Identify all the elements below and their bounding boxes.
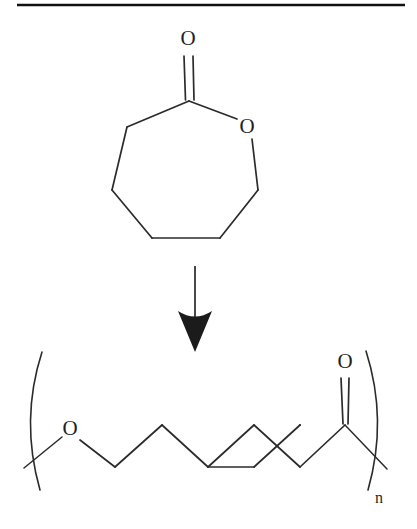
product-polycaprolactone: O O n	[24, 349, 387, 506]
polymer-backbone-bonds	[80, 425, 345, 467]
right-bracket	[366, 351, 378, 490]
carbonyl-double-bond-product	[341, 378, 349, 424]
reaction-arrow	[178, 266, 212, 352]
repeat-unit-subscript: n	[375, 489, 383, 506]
left-bracket	[30, 352, 42, 490]
reactant-caprolactone: O O	[112, 26, 258, 238]
carbonyl-oxygen-label-reactant: O	[180, 26, 195, 50]
arrow-head-icon	[178, 311, 212, 352]
carbonyl-oxygen-label-product: O	[337, 349, 352, 373]
left-open-bond	[24, 437, 62, 468]
lactone-ring-bonds	[112, 101, 258, 238]
reaction-scheme: O O	[0, 0, 417, 529]
right-open-bond	[345, 425, 387, 469]
carbonyl-double-bond-reactant	[184, 56, 194, 100]
ring-oxygen-label-reactant: O	[239, 114, 254, 138]
ester-oxygen-label-product: O	[62, 416, 77, 440]
